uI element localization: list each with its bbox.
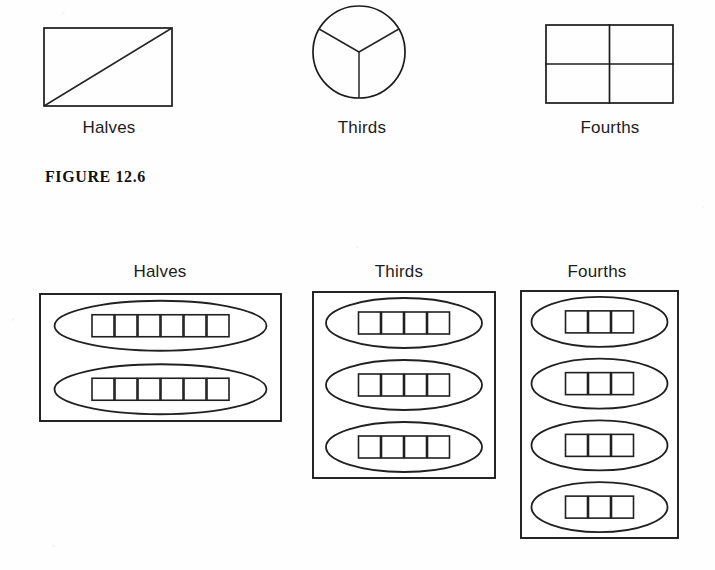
scan-speckle xyxy=(52,545,55,547)
area-model-fourths-rectangle xyxy=(542,21,677,107)
figure-page: HalvesThirdsFourths FIGURE 12.6 HalvesTh… xyxy=(0,0,715,570)
area-model-halves-rectangle xyxy=(40,24,176,110)
area-model-label-fourths: Fourths xyxy=(510,118,710,138)
scan-speckle xyxy=(62,12,65,14)
area-model-thirds-circle xyxy=(309,2,409,102)
set-model-label-halves: Halves xyxy=(60,262,260,282)
set-model-label-thirds: Thirds xyxy=(299,262,499,282)
area-model-label-halves: Halves xyxy=(9,118,209,138)
set-model-box-fourths xyxy=(517,287,682,542)
set-model-box-halves xyxy=(36,290,285,425)
scan-speckle xyxy=(12,318,14,321)
figure-caption: FIGURE 12.6 xyxy=(45,168,146,186)
set-model-box-thirds xyxy=(309,288,499,482)
scan-speckle xyxy=(356,246,359,248)
scan-speckle xyxy=(702,206,704,208)
set-model-label-fourths: Fourths xyxy=(497,262,697,282)
area-model-label-thirds: Thirds xyxy=(262,118,462,138)
